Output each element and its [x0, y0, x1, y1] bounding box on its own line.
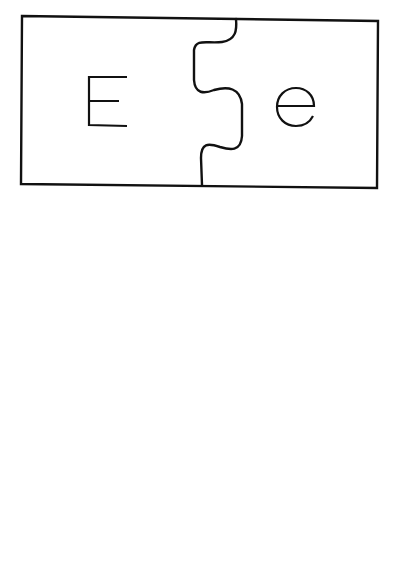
puzzle-card-1: [21, 16, 378, 188]
puzzle-drawing: [0, 0, 401, 568]
puzzle-card-1-seam: [194, 19, 242, 185]
uppercase-letter-e: [89, 77, 127, 126]
lowercase-letter-e: [277, 88, 314, 126]
